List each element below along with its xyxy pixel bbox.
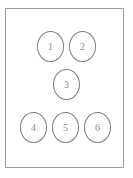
node-label: 6 <box>95 123 100 133</box>
node-ellipse-4[interactable]: 4 <box>20 112 47 143</box>
node-label: 5 <box>63 123 68 133</box>
node-label: 3 <box>64 80 69 90</box>
node-ellipse-2[interactable]: 2 <box>69 31 96 62</box>
node-label: 4 <box>31 123 36 133</box>
node-label: 2 <box>80 42 85 52</box>
node-ellipse-5[interactable]: 5 <box>52 112 79 143</box>
diagram-canvas: 123456 <box>0 0 133 178</box>
diagram-frame: 123456 <box>5 8 124 168</box>
node-ellipse-1[interactable]: 1 <box>37 31 64 62</box>
node-ellipse-6[interactable]: 6 <box>84 112 111 143</box>
node-ellipse-3[interactable]: 3 <box>53 69 80 100</box>
node-label: 1 <box>48 42 53 52</box>
